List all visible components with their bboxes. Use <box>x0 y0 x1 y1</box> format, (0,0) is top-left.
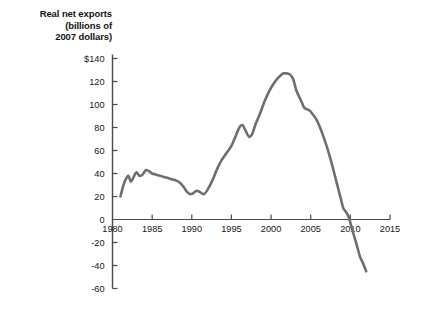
x-axis-tick-label: 2000 <box>261 224 281 234</box>
y-axis-tick-label: 20 <box>94 192 104 202</box>
x-axis-tick-label: 1985 <box>142 224 162 234</box>
y-axis-tick-label: 100 <box>89 100 104 110</box>
x-axis-tick-label: 2015 <box>380 224 400 234</box>
y-axis-tick-label: $140 <box>84 54 104 64</box>
x-axis-tick-label: 1980 <box>102 224 122 234</box>
chart-plot-area: $140120100806040200-20-40-60198019851990… <box>0 0 431 309</box>
y-axis-tick-label: -60 <box>91 284 104 294</box>
x-axis-tick-label: 1995 <box>221 224 241 234</box>
x-axis-tick-label: 1990 <box>182 224 202 234</box>
y-axis-tick-label: -40 <box>91 261 104 271</box>
y-axis-tick-label: 80 <box>94 123 104 133</box>
y-axis-tick-label: 40 <box>94 169 104 179</box>
data-series-line <box>120 73 366 271</box>
y-axis-tick-label: 120 <box>89 77 104 87</box>
y-axis-tick-label: -20 <box>91 238 104 248</box>
x-axis-tick-label: 2005 <box>300 224 320 234</box>
chart-figure: Real net exports (billions of 2007 dolla… <box>0 0 431 309</box>
y-axis-tick-label: 60 <box>94 146 104 156</box>
